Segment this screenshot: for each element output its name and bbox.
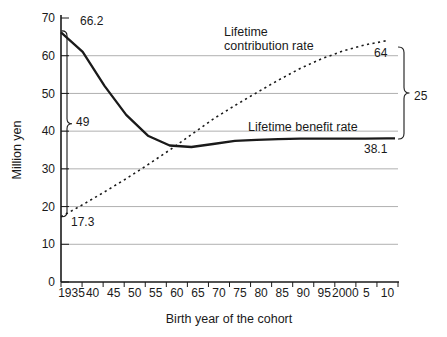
contribution-end-value: 64 — [374, 47, 387, 60]
svg-text:10: 10 — [42, 237, 56, 251]
svg-text:50: 50 — [128, 286, 142, 300]
svg-text:85: 85 — [275, 286, 289, 300]
contribution-line-label: Lifetime contribution rate — [224, 25, 314, 53]
x-tick-labels: 19354045505560657075808590952000510 — [58, 286, 394, 300]
y-gridlines — [61, 56, 398, 245]
svg-text:5: 5 — [363, 286, 370, 300]
benefit-start-value: 66.2 — [80, 15, 103, 28]
svg-text:60: 60 — [42, 49, 56, 63]
svg-text:45: 45 — [107, 286, 121, 300]
svg-text:10: 10 — [381, 286, 395, 300]
benefit-line-label: Lifetime benefit rate — [248, 120, 358, 134]
svg-text:70: 70 — [212, 286, 226, 300]
right-brace — [399, 47, 410, 139]
y-tick-labels: 010203040506070 — [42, 11, 56, 289]
svg-text:40: 40 — [42, 124, 56, 138]
y-axis-title: Million yen — [10, 120, 24, 179]
svg-text:55: 55 — [149, 286, 163, 300]
benefit-end-value: 38.1 — [364, 143, 387, 156]
axes — [61, 15, 399, 282]
svg-text:30: 30 — [42, 162, 56, 176]
svg-text:95: 95 — [318, 286, 332, 300]
pension-cohort-chart: 0102030405060701935404550556065707580859… — [0, 0, 447, 337]
y-ticks — [61, 18, 69, 282]
svg-text:80: 80 — [254, 286, 268, 300]
right-brace-gap-value: 25 — [414, 90, 427, 103]
svg-text:90: 90 — [297, 286, 311, 300]
svg-text:1935: 1935 — [58, 286, 85, 300]
svg-text:75: 75 — [233, 286, 247, 300]
svg-text:2000: 2000 — [332, 286, 359, 300]
x-axis-title: Birth year of the cohort — [166, 312, 292, 326]
svg-text:70: 70 — [42, 11, 56, 25]
svg-text:60: 60 — [170, 286, 184, 300]
svg-text:40: 40 — [86, 286, 100, 300]
svg-text:20: 20 — [42, 200, 56, 214]
left-brace — [62, 31, 72, 217]
left-brace-gap-value: 49 — [76, 116, 89, 129]
contribution-line-label-line2: contribution rate — [224, 39, 314, 53]
svg-text:65: 65 — [191, 286, 205, 300]
svg-text:0: 0 — [48, 275, 55, 289]
contribution-line-label-line1: Lifetime — [224, 25, 314, 39]
contribution-start-value: 17.3 — [71, 216, 94, 229]
svg-text:50: 50 — [42, 87, 56, 101]
